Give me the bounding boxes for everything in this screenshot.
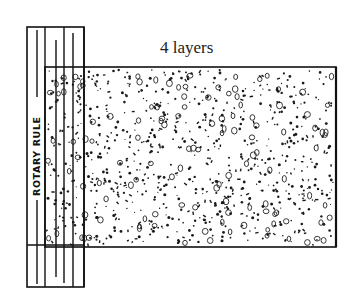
material-block	[45, 67, 336, 247]
rotary-rule-label: ROTARY RULE	[31, 116, 42, 196]
rotary-rule-diagram: 4 layers ROTARY RULE	[0, 0, 351, 298]
caption-layers: 4 layers	[160, 38, 213, 57]
